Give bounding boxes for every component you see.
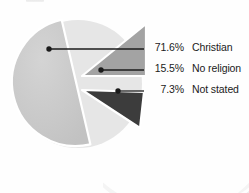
callout-no-religion[interactable]: 15.5% No religion — [146, 62, 241, 76]
callout-value-christian: 71.6% — [146, 41, 184, 53]
callout-label-christian: Christian — [192, 41, 233, 53]
callout-label-not-stated: Not stated — [192, 83, 239, 95]
callout-not-stated[interactable]: 7.3% Not stated — [146, 83, 239, 97]
callout-value-no-religion: 15.5% — [146, 62, 184, 74]
callout-value-not-stated: 7.3% — [146, 83, 184, 95]
pie-chart-figure: 71.6% Christian 15.5% No religion 7.3% N… — [0, 0, 249, 193]
callout-christian[interactable]: 71.6% Christian — [146, 41, 233, 55]
callout-label-no-religion: No religion — [192, 62, 241, 74]
